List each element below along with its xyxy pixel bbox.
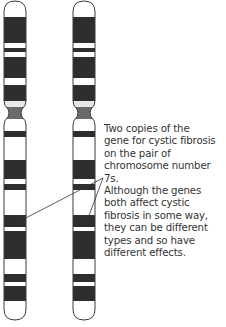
caption-line: Two copies of the bbox=[104, 123, 226, 135]
caption-line: on the pair of bbox=[104, 148, 226, 160]
caption: Two copies of the gene for cystic fibros… bbox=[104, 123, 226, 259]
caption-line: gene for cystic fibrosis bbox=[104, 135, 226, 147]
pointer-line-left bbox=[20, 178, 103, 221]
pointer-line-right bbox=[87, 178, 103, 221]
caption-line: both affect cystic bbox=[104, 197, 226, 209]
caption-line: different effects. bbox=[104, 247, 226, 259]
caption-line: Although the genes bbox=[104, 185, 226, 197]
caption-line: chromosome number 7s. bbox=[104, 160, 226, 185]
caption-line: types and so have bbox=[104, 235, 226, 247]
caption-line: they can be different bbox=[104, 222, 226, 234]
caption-line: fibrosis in some way, bbox=[104, 210, 226, 222]
